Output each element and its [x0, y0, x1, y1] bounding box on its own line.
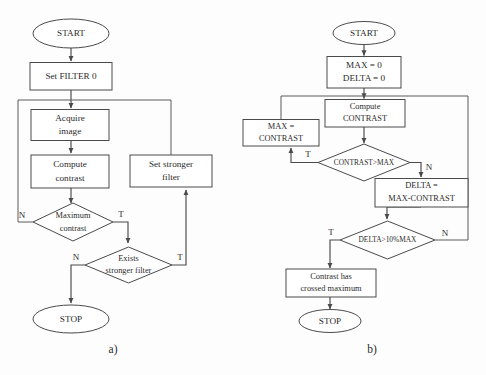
- edge-b-delta-yes-to-result: [330, 240, 340, 268]
- node-a-maximum-contrast-label-1: Maximum: [56, 211, 91, 220]
- edge-a-maxcontrast-yes: [113, 222, 128, 243]
- node-b-init-label-2: DELTA = 0: [343, 73, 386, 83]
- node-a-set-stronger-filter-label-2: filter: [162, 172, 180, 182]
- branch-a-exists-no: N: [73, 252, 80, 262]
- branch-b-contrast-no: N: [426, 162, 433, 172]
- node-a-maximum-contrast-decision: [33, 203, 113, 241]
- node-b-delta-assign-label-1: DELTA =: [405, 181, 438, 190]
- node-a-set-stronger-filter-label-1: Set stronger: [149, 159, 193, 169]
- flowchart-figure: START Set FILTER 0 Acquire image Compute…: [0, 0, 486, 375]
- node-a-acquire-image-label-2: image: [59, 126, 81, 136]
- node-a-exists-stronger-filter-decision: [85, 247, 172, 283]
- branch-b-contrast-yes: T: [305, 149, 311, 159]
- flowchart-b: START MAX = 0 DELTA = 0 Compute CONTRAST…: [243, 22, 468, 356]
- node-b-delta-assign-label-2: MAX-CONTRAST: [388, 194, 455, 203]
- node-b-compute-contrast-label-2: CONTRAST: [343, 114, 387, 123]
- node-a-maximum-contrast-label-2: contrast: [60, 224, 87, 233]
- node-b-contrast-greater-label: CONTRAST>MAX: [334, 158, 395, 167]
- node-a-start-label: START: [57, 28, 85, 38]
- node-b-start-label: START: [350, 28, 378, 38]
- node-a-compute-contrast-label-2: contrast: [55, 173, 85, 183]
- node-b-assign-max-label-2: CONTRAST: [259, 134, 303, 143]
- caption-b: b): [367, 343, 377, 356]
- node-b-stop-label: STOP: [319, 316, 341, 326]
- node-b-init-label-1: MAX = 0: [346, 60, 382, 70]
- node-a-set-filter-label: Set FILTER 0: [45, 71, 97, 81]
- branch-a-maximum-contrast-yes: T: [118, 209, 124, 219]
- node-b-compute-contrast-label-1: Compute: [350, 102, 381, 111]
- node-a-acquire-image-label-1: Acquire: [55, 113, 85, 123]
- edge-a-exists-no-to-stop: [71, 265, 85, 303]
- node-a-stop-label: STOP: [60, 314, 82, 324]
- edge-b-delta-to-conddelta: [387, 207, 421, 219]
- node-b-result-label-2: crossed maximum: [300, 284, 362, 293]
- branch-b-delta-yes: T: [328, 227, 334, 237]
- node-b-delta-threshold-label: DELTA>10%MAX: [359, 235, 418, 244]
- flowchart-a: START Set FILTER 0 Acquire image Compute…: [18, 19, 212, 356]
- flowchart-canvas: START Set FILTER 0 Acquire image Compute…: [0, 0, 486, 375]
- node-b-assign-max-label-1: MAX =: [268, 122, 295, 131]
- node-a-exists-stronger-filter-label-2: stronger filter: [106, 266, 152, 275]
- branch-b-delta-no: N: [442, 228, 449, 238]
- node-b-result-label-1: Contrast has: [310, 272, 352, 281]
- branch-a-exists-yes: T: [177, 252, 183, 262]
- branch-a-maximum-contrast-no: N: [19, 210, 26, 220]
- node-a-compute-contrast-label-1: Compute: [53, 159, 87, 169]
- node-a-exists-stronger-filter-label-1: Exists: [118, 254, 138, 263]
- caption-a: a): [109, 343, 118, 356]
- edge-b-contrast-no-to-delta: [410, 163, 421, 178]
